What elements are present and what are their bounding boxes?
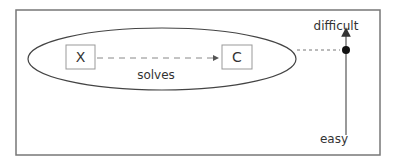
node-c-label: C bbox=[232, 49, 242, 65]
axis-label-easy: easy bbox=[320, 132, 348, 146]
axis-label-difficult: difficult bbox=[314, 19, 359, 33]
node-x-label: X bbox=[76, 49, 86, 65]
difficulty-marker-dot bbox=[342, 46, 350, 54]
diagram-canvas: X C solves difficult easy bbox=[0, 0, 393, 162]
node-x: X bbox=[66, 45, 95, 69]
edge-label-solves: solves bbox=[137, 68, 175, 82]
node-c: C bbox=[222, 45, 252, 69]
